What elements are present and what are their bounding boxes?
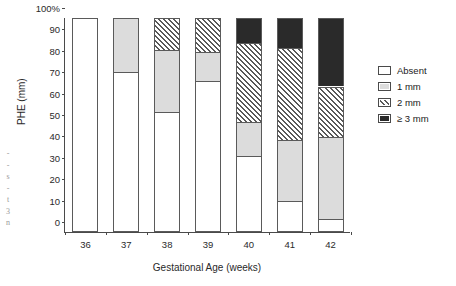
page-bleed-line: t <box>1 194 15 206</box>
bar-group <box>65 18 350 232</box>
x-axis-tick-mark <box>351 232 352 235</box>
legend-label: 2 mm <box>397 97 421 108</box>
y-axis-tick-label: 0 <box>55 217 60 228</box>
bar-segment-39-absent <box>195 81 221 232</box>
bar-segment-38-2-mm <box>154 18 180 50</box>
bar-segment-40-1-mm <box>236 122 262 156</box>
x-axis-tick-mark <box>188 232 189 235</box>
x-axis-tick-mark <box>106 232 107 235</box>
bar-segment-38-absent <box>154 112 180 232</box>
page-bleed-text: --s-t3n <box>1 148 15 229</box>
x-axis-tick-mark <box>269 232 270 235</box>
bar-41 <box>277 18 303 232</box>
bar-42 <box>318 18 344 232</box>
bar-segment-42--3-mm <box>318 18 344 86</box>
y-axis-tick-label: 70 <box>49 67 60 78</box>
y-axis-tick-label: 60 <box>49 88 60 99</box>
chart-legend: Absent1 mm2 mm≥ 3 mm <box>378 62 429 126</box>
legend-label: ≥ 3 mm <box>397 113 429 124</box>
y-axis-tick-label: 50 <box>49 110 60 121</box>
bar-37 <box>113 18 139 232</box>
x-axis-tick-label-41: 41 <box>284 239 295 250</box>
bar-segment-42-absent <box>318 219 344 232</box>
bar-39 <box>195 18 221 232</box>
legend-item--3-mm: ≥ 3 mm <box>378 110 429 126</box>
bar-segment-41-1-mm <box>277 140 303 201</box>
bar-segment-42-1-mm <box>318 137 344 219</box>
y-axis-title: PHE (mm) <box>16 78 27 125</box>
plot-area: 0102030405060708090100% 36373839404142 <box>64 18 350 233</box>
legend-item-1-mm: 1 mm <box>378 78 429 94</box>
y-axis-tick-label: 90 <box>49 24 60 35</box>
bar-segment-36-absent <box>72 18 98 232</box>
page-bleed-line: - <box>1 160 15 172</box>
legend-swatch-fill <box>379 67 390 74</box>
y-axis-tick-mark <box>62 8 65 9</box>
bar-segment-39-1-mm <box>195 52 221 81</box>
bar-segment-41-2-mm <box>277 48 303 140</box>
bar-segment-41--3-mm <box>277 18 303 48</box>
x-axis-tick-label-40: 40 <box>244 239 255 250</box>
x-axis-tick-label-38: 38 <box>162 239 173 250</box>
x-axis-tick-label-36: 36 <box>80 239 91 250</box>
x-axis-tick-label-39: 39 <box>203 239 214 250</box>
x-axis-tick-mark <box>228 232 229 235</box>
x-axis-title: Gestational Age (weeks) <box>64 262 350 273</box>
legend-label: 1 mm <box>397 81 421 92</box>
legend-swatch-dark <box>378 114 391 123</box>
y-axis-tick-label: 40 <box>49 131 60 142</box>
x-axis-tick-mark <box>147 232 148 235</box>
bar-38 <box>154 18 180 232</box>
page-bleed-line: - <box>1 148 15 160</box>
page-bleed-line: s <box>1 171 15 183</box>
y-axis-tick-label: 100% <box>36 3 60 14</box>
page-bleed-line: n <box>1 217 15 229</box>
bar-40 <box>236 18 262 232</box>
bar-segment-39-2-mm <box>195 18 221 52</box>
legend-swatch-light-gray <box>378 82 391 91</box>
bar-segment-37-absent <box>113 72 139 233</box>
legend-swatch-hatch <box>378 98 391 107</box>
y-axis-tick-label: 80 <box>49 45 60 56</box>
legend-swatch-fill <box>379 83 390 90</box>
page-bleed-line: 3 <box>1 206 15 218</box>
bar-segment-37-1-mm <box>113 18 139 72</box>
bar-segment-40-absent <box>236 156 262 232</box>
bar-segment-38-1-mm <box>154 50 180 112</box>
page-bleed-line: - <box>1 183 15 195</box>
x-axis-tick-mark <box>65 232 66 235</box>
legend-swatch-white <box>378 66 391 75</box>
bar-segment-40--3-mm <box>236 18 262 43</box>
bar-segment-40-2-mm <box>236 43 262 122</box>
bar-segment-41-absent <box>277 201 303 232</box>
bar-36 <box>72 18 98 232</box>
legend-swatch-fill <box>379 115 390 122</box>
x-axis-tick-mark <box>310 232 311 235</box>
bar-segment-42-2-mm <box>318 87 344 137</box>
legend-item-absent: Absent <box>378 62 429 78</box>
y-axis-tick-label: 10 <box>49 195 60 206</box>
legend-label: Absent <box>397 65 427 76</box>
x-axis-tick-label-42: 42 <box>325 239 336 250</box>
y-axis-tick-label: 30 <box>49 152 60 163</box>
legend-swatch-fill <box>379 99 390 106</box>
y-axis-tick-label: 20 <box>49 174 60 185</box>
stacked-bar-chart-figure: --s-t3n PHE (mm) 0102030405060708090100%… <box>0 0 456 286</box>
legend-item-2-mm: 2 mm <box>378 94 429 110</box>
x-axis-tick-label-37: 37 <box>121 239 132 250</box>
